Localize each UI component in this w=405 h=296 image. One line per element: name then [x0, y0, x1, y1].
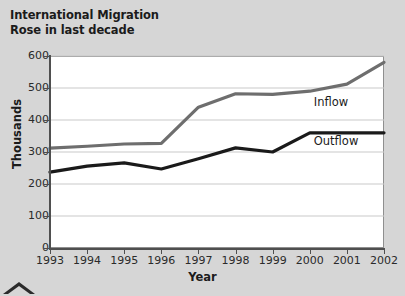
x-tick-mark: [273, 249, 274, 254]
y-tick-mark: [44, 88, 49, 89]
chart-title: International Migration Rose in last dec…: [10, 8, 310, 37]
x-tick-mark: [198, 249, 199, 254]
y-axis-line: [49, 55, 51, 250]
y-tick-label: 100: [5, 209, 49, 222]
chart-title-line-2: Rose in last decade: [10, 23, 310, 38]
x-tick-mark: [161, 249, 162, 254]
series-label-inflow: Inflow: [314, 95, 348, 109]
plot-area: [50, 56, 384, 248]
y-tick-mark: [44, 248, 49, 249]
x-tick-mark: [87, 249, 88, 254]
y-axis-ticks: 0100200300400500600: [0, 0, 49, 296]
y-tick-mark: [44, 184, 49, 185]
chart-title-line-1: International Migration: [10, 8, 310, 23]
y-tick-mark: [44, 120, 49, 121]
x-tick-mark: [50, 249, 51, 254]
y-tick-mark: [44, 152, 49, 153]
y-tick-label: 0: [5, 241, 49, 254]
x-tick-mark: [310, 249, 311, 254]
x-tick-mark: [384, 249, 385, 254]
x-tick-mark: [124, 249, 125, 254]
x-axis-label: Year: [0, 270, 405, 284]
chart-canvas: [50, 56, 384, 248]
series-label-outflow: Outflow: [314, 134, 359, 148]
y-tick-label: 600: [5, 49, 49, 62]
y-axis-label: Thousands: [10, 79, 24, 189]
x-tick-label: 2002: [361, 254, 405, 267]
x-tick-mark: [236, 249, 237, 254]
x-axis-line: [49, 248, 385, 250]
y-tick-mark: [44, 216, 49, 217]
x-tick-mark: [347, 249, 348, 254]
caret-up-icon[interactable]: [2, 279, 36, 296]
chart-figure: International Migration Rose in last dec…: [0, 0, 405, 296]
y-tick-mark: [44, 56, 49, 57]
